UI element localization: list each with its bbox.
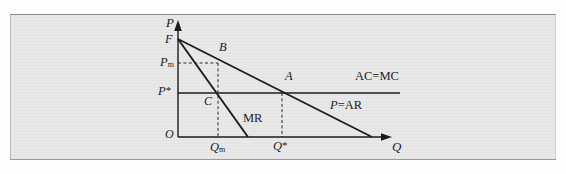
quantity-tick-qm: Qm	[210, 141, 225, 154]
curve-label-p-ar-prefix: P	[330, 98, 338, 112]
axis-label-q: Q	[392, 140, 401, 153]
horizontal-axis-arrow	[381, 133, 392, 141]
demand-curve-ar	[178, 39, 372, 137]
price-tick-pm-base: P	[160, 55, 168, 69]
curve-label-ac-mc: AC=MC	[355, 70, 399, 83]
point-label-a: A	[285, 70, 293, 83]
curve-label-p-ar-rest: =AR	[338, 98, 362, 112]
point-label-f: F	[165, 33, 173, 46]
quantity-tick-qm-base: Q	[210, 140, 219, 154]
vertical-axis-arrow	[174, 20, 182, 31]
quantity-tick-qstar-base: Q	[273, 139, 282, 153]
origin-label-o: O	[165, 128, 174, 140]
point-label-b: B	[219, 41, 227, 54]
guide-lines-group	[178, 63, 282, 137]
price-tick-pm-subscript: m	[168, 60, 174, 69]
point-label-c: C	[204, 95, 212, 107]
curve-label-p-ar: P=AR	[330, 99, 362, 112]
axis-label-p: P	[166, 16, 174, 29]
quantity-tick-qstar: Q*	[273, 140, 288, 153]
price-tick-pstar-base: P	[158, 84, 166, 98]
curve-label-mr: MR	[243, 112, 262, 125]
price-tick-pstar: P*	[158, 85, 171, 98]
marginal-revenue-curve	[178, 39, 248, 137]
price-tick-pm: Pm	[160, 56, 174, 69]
price-tick-pstar-superscript: *	[166, 84, 172, 96]
quantity-tick-qstar-superscript: *	[282, 139, 288, 151]
quantity-tick-qm-subscript: m	[219, 145, 225, 154]
